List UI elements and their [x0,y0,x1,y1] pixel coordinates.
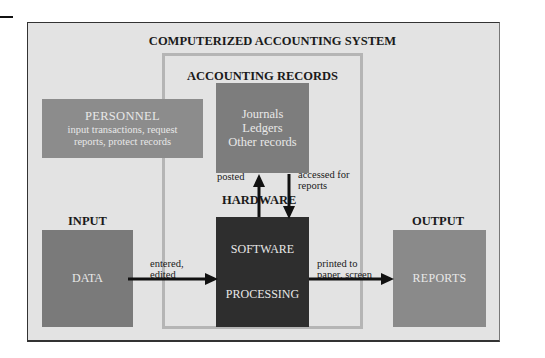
arrows-layer [0,0,545,358]
entered-arrow-icon [128,273,218,285]
accessed-arrow-icon [283,174,295,219]
printed-arrow-icon [309,273,394,285]
posted-arrow-icon [253,174,265,217]
